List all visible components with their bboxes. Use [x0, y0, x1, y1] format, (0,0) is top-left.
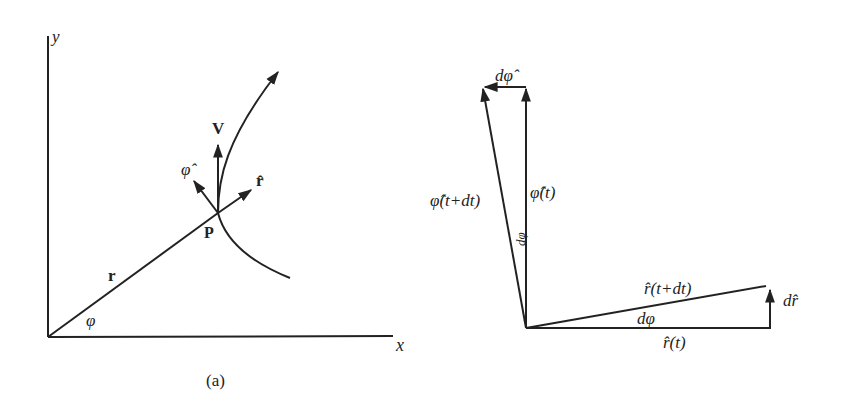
position-vector-r	[48, 213, 218, 337]
r-label: r	[108, 266, 116, 285]
velocity-label: V	[212, 119, 225, 138]
figure-b: dφ̂ φ̂(t) φ̂(t+dt) dφ r̂(t+dt) dφ r̂(t) …	[430, 66, 799, 352]
unit-r-label: r̂	[256, 171, 264, 190]
d-phi-angle-label-top: dφ	[513, 232, 528, 246]
figure-a: y x r φ P V r̂ φ̂ (a)	[48, 27, 404, 390]
r-t-label: r̂(t)	[663, 333, 686, 352]
phi-t-label: φ̂(t)	[530, 183, 556, 202]
unit-phi-vector	[194, 181, 218, 213]
phi-angle-label: φ	[86, 311, 95, 330]
y-axis-label: y	[50, 27, 60, 46]
diagram-canvas: y x r φ P V r̂ φ̂ (a) dφ̂ φ̂(t) φ̂(t+dt)…	[0, 0, 851, 405]
phi-t-dt-vector	[483, 89, 526, 328]
d-phi-hat-label: dφ̂	[495, 66, 520, 85]
r-t-dt-label: r̂(t+dt)	[644, 279, 692, 298]
phi-t-dt-label: φ̂(t+dt)	[430, 191, 480, 210]
d-phi-angle-label: dφ	[637, 309, 655, 328]
d-r-hat-label: dr̂	[783, 291, 799, 310]
unit-phi-label: φ̂	[181, 160, 197, 179]
trajectory-curve	[218, 72, 290, 278]
x-axis	[48, 336, 393, 337]
caption-a: (a)	[206, 371, 225, 390]
x-axis-label: x	[395, 335, 404, 355]
point-p-label: P	[204, 224, 214, 241]
unit-r-vector	[218, 190, 251, 213]
